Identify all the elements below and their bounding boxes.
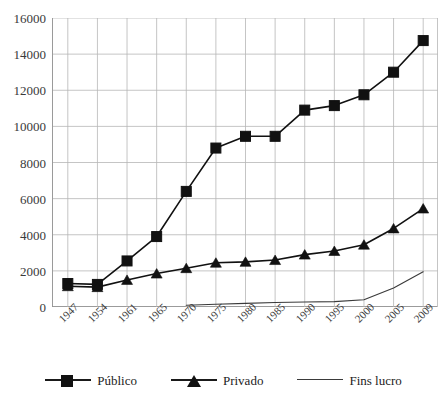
x-tick-label: 1970 xyxy=(175,301,198,324)
x-tick-label: 1954 xyxy=(86,301,109,324)
x-tick-label: 1995 xyxy=(323,301,346,324)
legend-triangle-icon xyxy=(187,375,201,387)
chart-legend: PúblicoPrivadoFins lucro xyxy=(0,368,447,392)
legend-label: Privado xyxy=(223,374,263,387)
x-tick-label: 1980 xyxy=(235,301,258,324)
legend-marker xyxy=(171,373,217,387)
x-tick-label: 1947 xyxy=(57,301,80,324)
x-tick-label: 1990 xyxy=(294,301,317,324)
legend-label: Fins lucro xyxy=(349,374,401,387)
legend-line-icon xyxy=(297,379,343,380)
legend-item[interactable]: Privado xyxy=(171,373,263,387)
legend-marker xyxy=(297,373,343,387)
x-tick-label: 1985 xyxy=(264,301,287,324)
x-tick-label: 1975 xyxy=(205,301,228,324)
x-axis-labels: 1947195419611965197019751980198519901995… xyxy=(0,0,447,398)
legend-item[interactable]: Fins lucro xyxy=(297,373,401,387)
x-tick-label: 1965 xyxy=(146,301,169,324)
x-tick-label: 1961 xyxy=(116,301,139,324)
legend-item[interactable]: Público xyxy=(45,373,137,387)
x-tick-label: 2000 xyxy=(353,301,376,324)
legend-square-icon xyxy=(61,375,73,387)
x-tick-label: 2005 xyxy=(383,301,406,324)
chart-container: 0200040006000800010000120001400016000 19… xyxy=(0,0,447,398)
legend-label: Público xyxy=(97,374,137,387)
x-tick-label: 2009 xyxy=(412,301,435,324)
legend-marker xyxy=(45,373,91,387)
